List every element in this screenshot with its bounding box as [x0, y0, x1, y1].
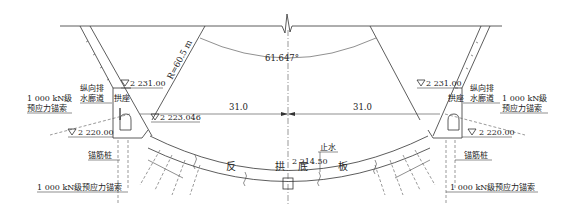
radius-label: R=60.5 m: [165, 38, 194, 81]
left-abutment-label: 拱座: [114, 93, 130, 103]
right-pile-label: 锚筋桩: [464, 150, 488, 160]
dim-right: 31.0: [353, 102, 372, 112]
left-anchor-label-2: 预应力锚索: [27, 103, 67, 113]
svg-text:2 223.046: 2 223.046: [160, 113, 201, 122]
svg-text:2 231.00: 2 231.00: [426, 79, 462, 88]
left-abutment: [113, 108, 148, 138]
ground-line: [60, 14, 502, 33]
elev-right-base: 2 220.00: [462, 128, 515, 137]
slab-char-2: 拱: [275, 160, 285, 172]
left-pile-label: 锚筋桩: [88, 150, 112, 160]
svg-text:2 220.00: 2 220.00: [78, 128, 114, 137]
inverted-arch-section-diagram: 61.647° R=60.5 m 31.0 31.0 反 拱 底 板: [0, 0, 570, 213]
right-abutment: [428, 114, 462, 138]
left-gallery-label-2: 水廊道: [80, 93, 104, 103]
angle-label: 61.647°: [265, 53, 299, 63]
left-gallery-label-1: 纵向排: [80, 83, 104, 93]
slab-char-1: 反: [226, 161, 236, 172]
left-anchor-label-1: 1 000 kN级: [27, 93, 72, 103]
elev-left-top: 2 231.00: [121, 79, 166, 88]
slab-char-4: 板: [338, 160, 348, 172]
right-radial-line: [370, 26, 420, 120]
elev-left-base: 2 220.00: [68, 128, 114, 137]
right-gallery-label-2: 水廊道: [470, 93, 494, 103]
svg-text:2 231.00: 2 231.00: [130, 79, 166, 88]
waterstop-label: 止水: [320, 142, 336, 152]
left-bottom-anchor-label: 1 000 kN级预应力锚索: [37, 182, 122, 192]
inverted-arch-slab: [148, 136, 430, 189]
right-bottom-anchor-label: 1 000 kN级预应力锚索: [450, 182, 535, 192]
right-anchor-label-2: 预应力锚索: [502, 103, 542, 113]
elev-right-top: 2 231.00: [417, 79, 462, 88]
right-anchor-label-1: 1 000 kN级: [502, 93, 547, 103]
elev-left-springing: 2 223.046: [151, 113, 201, 122]
right-gallery-label-1: 纵向排: [470, 83, 494, 93]
elev-bottom: 2 214.50: [292, 157, 328, 166]
svg-text:2 220.00: 2 220.00: [479, 128, 515, 137]
right-abutment-label: 拱座: [448, 93, 464, 103]
dim-left: 31.0: [229, 102, 248, 112]
left-radial-line: [152, 26, 205, 120]
